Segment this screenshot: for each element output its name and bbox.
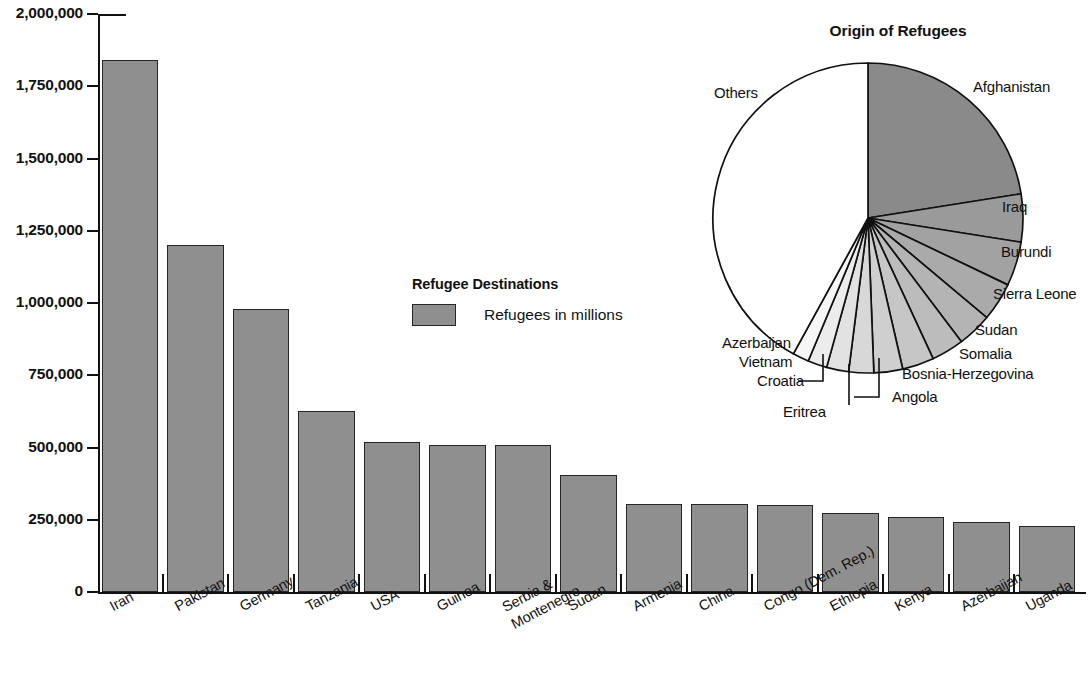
bar <box>167 245 223 592</box>
bar <box>364 442 420 592</box>
bar <box>691 504 747 592</box>
x-tick <box>620 574 622 592</box>
pie-slice-label: Afghanistan <box>973 78 1050 95</box>
y-tick-label: 1,000,000 <box>0 293 83 311</box>
y-tick <box>87 591 98 593</box>
x-tick <box>686 574 688 592</box>
pie-slice-label: Bosnia-Herzegovina <box>902 365 1033 382</box>
pie-slice-label: Azerbaijan <box>722 334 791 351</box>
y-tick-top <box>98 14 126 16</box>
pie-slice-label: Angola <box>892 388 938 405</box>
pie-slice-label: Others <box>714 84 758 101</box>
y-tick-label: 250,000 <box>0 510 83 528</box>
pie-slice-label: Croatia <box>757 372 804 389</box>
legend-swatch <box>412 304 456 326</box>
bar <box>298 411 354 592</box>
y-tick <box>87 447 98 449</box>
pie-slice-label: Sierra Leone <box>993 285 1077 302</box>
y-tick <box>87 13 98 15</box>
y-tick-label: 500,000 <box>0 438 83 456</box>
bar <box>233 309 289 592</box>
legend-series-label: Refugees in millions <box>484 306 623 324</box>
chart-canvas: 0250,000500,000750,0001,000,0001,250,000… <box>0 0 1092 678</box>
y-tick-label: 750,000 <box>0 365 83 383</box>
x-tick <box>424 574 426 592</box>
x-tick <box>227 574 229 592</box>
y-axis <box>98 14 100 594</box>
y-tick <box>87 302 98 304</box>
x-tick <box>751 574 753 592</box>
bar <box>495 445 551 592</box>
pie-chart-title: Origin of Refugees <box>798 22 998 40</box>
y-tick-label: 0 <box>0 582 83 600</box>
y-tick-label: 1,250,000 <box>0 221 83 239</box>
x-tick <box>358 574 360 592</box>
pie-slice-label: Somalia <box>959 345 1012 362</box>
x-tick <box>162 574 164 592</box>
y-tick <box>87 230 98 232</box>
x-tick <box>489 574 491 592</box>
bar <box>102 60 158 592</box>
y-tick <box>87 158 98 160</box>
pie-slice-label: Burundi <box>1001 243 1051 260</box>
bar <box>429 445 485 592</box>
y-tick-label: 1,750,000 <box>0 76 83 94</box>
legend-row: Refugees in millions <box>412 304 623 326</box>
y-tick-label: 2,000,000 <box>0 4 83 22</box>
bar-chart-legend: Refugee Destinations Refugees in million… <box>412 276 623 326</box>
pie-slice-label: Eritrea <box>783 403 826 420</box>
x-tick <box>948 574 950 592</box>
x-tick <box>882 574 884 592</box>
legend-title: Refugee Destinations <box>412 276 623 292</box>
y-tick <box>87 374 98 376</box>
y-tick-label: 1,500,000 <box>0 149 83 167</box>
y-tick <box>87 85 98 87</box>
y-tick <box>87 519 98 521</box>
bar <box>888 517 944 592</box>
pie-slice-label: Vietnam <box>739 353 792 370</box>
pie-slice-label: Sudan <box>975 321 1017 338</box>
pie-slice-label: Iraq <box>1002 198 1027 215</box>
